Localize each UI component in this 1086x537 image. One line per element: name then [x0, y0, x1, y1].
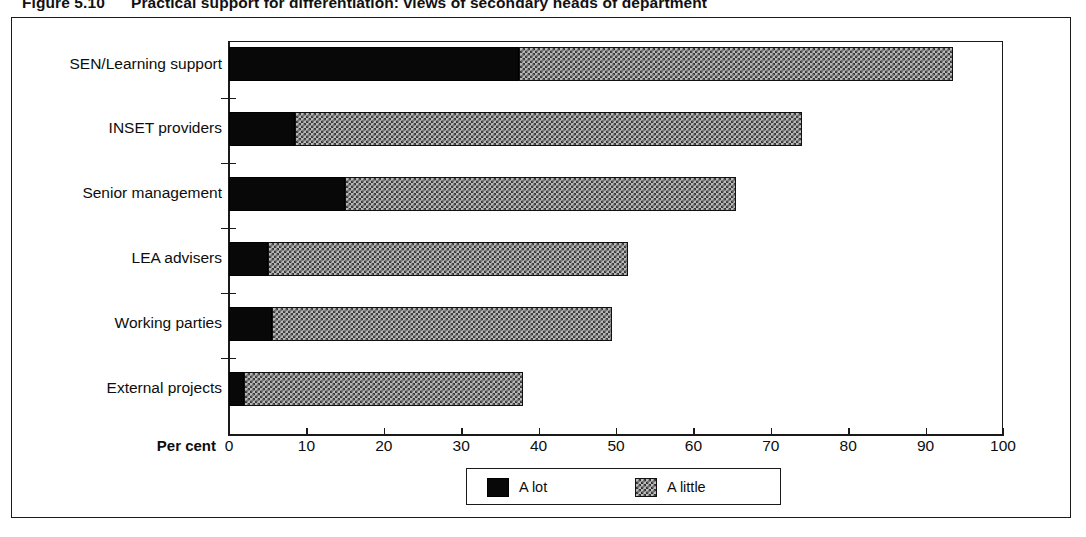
bar-row: [229, 112, 802, 146]
x-tick-label-50: 50: [594, 437, 638, 455]
legend-swatch-a-little-icon: [635, 478, 657, 497]
x-tick-70: [771, 428, 772, 436]
x-tick-label-60: 60: [671, 437, 715, 455]
x-tick-label-80: 80: [826, 437, 870, 455]
legend-label-a-little: A little: [667, 479, 706, 495]
figure-page: Figure 5.10Practical support for differe…: [0, 0, 1086, 537]
x-tick-label-100: 100: [981, 437, 1025, 455]
x-tick-label-70: 70: [749, 437, 793, 455]
bar-series-container: [0, 0, 1086, 537]
bar-segment-a-little: [268, 242, 628, 276]
x-tick-40: [539, 428, 540, 436]
chart-legend: A lot A little: [466, 468, 781, 505]
x-axis-title: Per cent: [108, 437, 216, 454]
legend-item-a-little: A little: [635, 477, 706, 497]
bar-segment-a-little: [244, 372, 523, 406]
x-tick-10: [306, 428, 307, 436]
x-tick-label-10: 10: [284, 437, 328, 455]
bar-segment-a-little: [295, 112, 802, 146]
x-tick-label-30: 30: [439, 437, 483, 455]
bar-segment-a-little: [345, 177, 736, 211]
bar-segment-a-lot: [229, 307, 272, 341]
bar-row: [229, 242, 628, 276]
legend-swatch-a-lot-icon: [487, 478, 509, 497]
bar-segment-a-lot: [229, 47, 519, 81]
bar-segment-a-lot: [229, 242, 268, 276]
bar-row: [229, 372, 523, 406]
bar-segment-a-little: [272, 307, 613, 341]
x-tick-30: [461, 428, 462, 436]
x-tick-label-40: 40: [517, 437, 561, 455]
bar-row: [229, 307, 612, 341]
x-tick-60: [693, 428, 694, 436]
bar-segment-a-lot: [229, 372, 244, 406]
x-tick-90: [926, 428, 927, 436]
x-tick-100: [1003, 428, 1004, 436]
x-tick-0: [229, 428, 230, 436]
bar-segment-a-lot: [229, 112, 295, 146]
x-tick-label-90: 90: [904, 437, 948, 455]
bar-segment-a-little: [519, 47, 952, 81]
x-tick-20: [384, 428, 385, 436]
legend-item-a-lot: A lot: [487, 477, 547, 497]
x-tick-label-20: 20: [362, 437, 406, 455]
bar-row: [229, 47, 953, 81]
bar-segment-a-lot: [229, 177, 345, 211]
legend-label-a-lot: A lot: [519, 479, 547, 495]
bar-row: [229, 177, 736, 211]
x-tick-50: [616, 428, 617, 436]
x-tick-80: [848, 428, 849, 436]
